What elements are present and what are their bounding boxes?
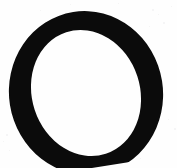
letter-o-outer-bowl xyxy=(0,0,175,168)
scanned-page-canvas xyxy=(0,0,177,168)
letter-o-vector xyxy=(0,0,177,168)
letter-o-glyph xyxy=(0,0,177,168)
